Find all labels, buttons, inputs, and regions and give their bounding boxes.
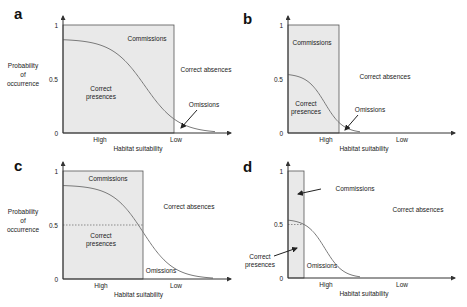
x-low-label: Low	[396, 136, 408, 143]
correct-absences-label: Correct absences	[360, 73, 412, 80]
x-high-label: High	[93, 136, 107, 144]
y-axis-label: of	[20, 71, 26, 78]
y-tick-label: 0	[279, 275, 283, 282]
correct-presences-label: presences	[86, 240, 117, 248]
commissions-label: Commissions	[88, 175, 128, 182]
correct-absences-label: Correct absences	[393, 206, 445, 213]
panel-letter: a	[14, 5, 23, 22]
correct-presences-label: presences	[86, 93, 117, 101]
shaded-region	[288, 171, 304, 278]
y-tick-label: 0	[54, 276, 58, 283]
omissions-label: Omissions	[307, 262, 338, 269]
y-axis-label: Probability	[8, 208, 39, 216]
y-tick-label: 0.5	[49, 76, 58, 83]
x-high-label: High	[319, 136, 333, 144]
y-axis-label: of	[20, 217, 26, 224]
x-high-label: High	[94, 282, 108, 290]
omissions-arrow	[345, 115, 358, 130]
x-axis-label: Habitat suitability	[339, 145, 389, 153]
correct-absences-label: Correct absences	[164, 203, 216, 210]
commissions-label: Commissions	[127, 35, 167, 42]
commissions-label: Commissions	[335, 185, 375, 192]
omissions-label: Omissions	[189, 101, 220, 108]
correct-presences-label: Correct	[295, 100, 317, 107]
x-low-label: Low	[170, 282, 182, 289]
correct-presences-label: presences	[245, 261, 276, 269]
x-low-label: Low	[170, 136, 182, 143]
x-low-label: Low	[396, 281, 408, 288]
y-axis-label: Probability	[8, 62, 39, 70]
four-panel-diagram: 10.50aProbabilityofoccurrenceHighLowHabi…	[0, 0, 467, 307]
y-tick-label: 0.5	[274, 76, 283, 83]
panel-letter: d	[243, 158, 252, 175]
y-axis-label: occurrence	[7, 80, 40, 87]
y-tick-label: 1	[279, 22, 283, 29]
omissions-label: Omissions	[355, 106, 386, 113]
panel-letter: c	[14, 157, 22, 174]
panel-b: 10.50bHighLowHabitat suitabilityCommissi…	[243, 10, 455, 153]
figure: 10.50aProbabilityofoccurrenceHighLowHabi…	[0, 0, 467, 307]
omissions-arrow	[181, 110, 197, 128]
y-tick-label: 1	[279, 168, 283, 175]
x-axis-label: Habitat suitability	[339, 290, 389, 298]
y-tick-label: 1	[54, 22, 58, 29]
correct-presences-label: Correct	[90, 232, 112, 239]
y-tick-label: 0	[54, 130, 58, 137]
commissions-label: Commissions	[292, 39, 332, 46]
x-axis-label: Habitat suitability	[113, 145, 163, 153]
omissions-label: Omissions	[146, 267, 177, 274]
panel-c: 10.50cProbabilityofoccurrenceHighLowHabi…	[7, 157, 231, 299]
y-axis-label: occurrence	[7, 226, 40, 233]
x-high-label: High	[319, 281, 333, 289]
panel-d: 10.50dHighLowHabitat suitabilityCommissi…	[243, 158, 455, 298]
y-tick-label: 0.5	[274, 221, 283, 228]
y-tick-label: 0	[279, 130, 283, 137]
correct-presences-label: presences	[291, 108, 322, 116]
correct-presences-label: Correct	[90, 85, 112, 92]
panel-a: 10.50aProbabilityofoccurrenceHighLowHabi…	[7, 5, 232, 153]
correct-presences-label: Correct	[249, 253, 271, 260]
x-axis-label: Habitat suitability	[114, 291, 164, 299]
panel-letter: b	[243, 10, 252, 27]
y-tick-label: 0.5	[49, 222, 58, 229]
correct-absences-label: Correct absences	[181, 66, 233, 73]
y-tick-label: 1	[54, 168, 58, 175]
